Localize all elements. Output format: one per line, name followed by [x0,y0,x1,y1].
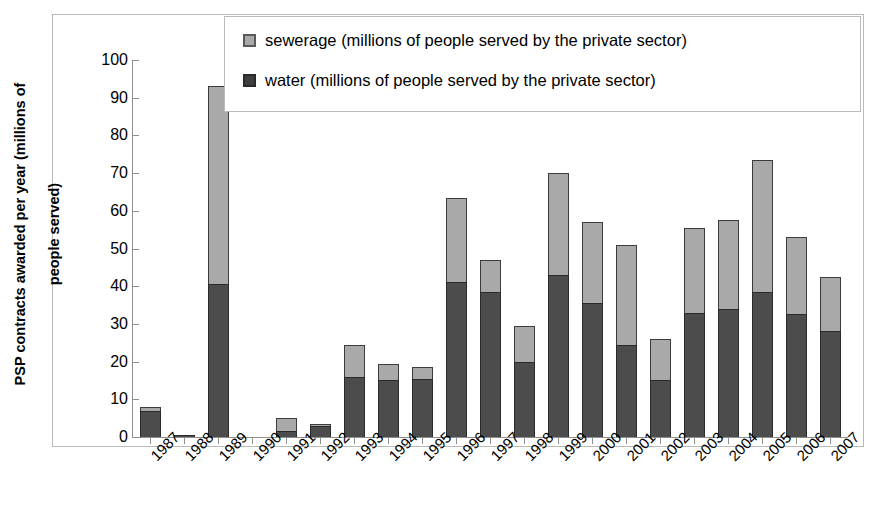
bar-column[interactable] [473,60,507,437]
bar-segment-sewerage[interactable] [718,220,739,309]
stacked-bar[interactable] [718,220,739,437]
bar-column[interactable] [677,60,711,437]
stacked-bar[interactable] [344,345,365,437]
bar-segment-sewerage[interactable] [480,260,501,292]
bar-column[interactable] [337,60,371,437]
x-axis-tick-labels: 1987198819891990199119921993199419951996… [133,444,847,514]
bar-column[interactable] [643,60,677,437]
bar-segment-water[interactable] [718,309,739,437]
bar-column[interactable] [439,60,473,437]
bar-column[interactable] [371,60,405,437]
stacked-bar[interactable] [616,245,637,437]
legend-item-sewerage[interactable]: sewerage (millions of people served by t… [243,31,860,49]
bar-segment-sewerage[interactable] [276,418,297,431]
y-tick-label: 100 [76,52,128,68]
stacked-bar[interactable] [684,228,705,437]
bar-segment-water[interactable] [412,379,433,437]
stacked-bar[interactable] [752,160,773,437]
bar-segment-sewerage[interactable] [446,198,467,283]
x-tick-mark [830,437,831,444]
bar-column[interactable] [235,60,269,437]
bar-segment-sewerage[interactable] [548,173,569,275]
bar-segment-sewerage[interactable] [684,228,705,313]
bar-segment-water[interactable] [786,314,807,437]
bar-segment-sewerage[interactable] [752,160,773,292]
bar-column[interactable] [779,60,813,437]
x-tick-mark [490,437,491,444]
stacked-bar[interactable] [208,86,229,437]
bar-segment-water[interactable] [548,275,569,437]
stacked-bar[interactable] [650,339,671,437]
x-tick-mark [694,437,695,444]
bar-column[interactable] [167,60,201,437]
bar-segment-water[interactable] [140,411,161,437]
bar-segment-sewerage[interactable] [378,364,399,381]
bar-column[interactable] [541,60,575,437]
bar-column[interactable] [813,60,847,437]
x-tick-mark [252,437,253,444]
bar-segment-water[interactable] [344,377,365,437]
bar-segment-water[interactable] [378,380,399,437]
y-tick-label: 40 [76,278,128,294]
x-tick-mark [626,437,627,444]
bar-segment-water[interactable] [208,284,229,437]
y-tick-label: 30 [76,316,128,332]
bar-series-container [133,60,847,437]
bar-segment-sewerage[interactable] [582,222,603,303]
x-tick-mark [524,437,525,444]
bar-column[interactable] [609,60,643,437]
bar-segment-water[interactable] [820,331,841,437]
bar-segment-sewerage[interactable] [208,86,229,284]
x-tick-mark [150,437,151,444]
y-axis-title: PSP contracts awarded per year (millions… [15,19,59,449]
legend-label-water: water (millions of people served by the … [265,71,656,89]
stacked-bar[interactable] [582,222,603,437]
legend-swatch-water-icon [243,74,256,87]
bar-segment-water[interactable] [514,362,535,437]
stacked-bar[interactable] [140,407,161,437]
bar-column[interactable] [575,60,609,437]
bar-column[interactable] [133,60,167,437]
bar-column[interactable] [269,60,303,437]
bar-column[interactable] [711,60,745,437]
bar-segment-water[interactable] [582,303,603,437]
stacked-bar[interactable] [514,326,535,437]
x-tick-mark [422,437,423,444]
bar-segment-water[interactable] [650,380,671,437]
stacked-bar[interactable] [480,260,501,437]
bar-segment-water[interactable] [446,282,467,437]
bar-column[interactable] [507,60,541,437]
bar-segment-sewerage[interactable] [820,277,841,332]
bar-segment-sewerage[interactable] [412,367,433,378]
y-tick-label: 0 [76,429,128,445]
bar-segment-water[interactable] [480,292,501,437]
legend-swatch-sewerage-icon [243,34,256,47]
legend-item-water[interactable]: water (millions of people served by the … [243,71,860,89]
x-tick-mark [796,437,797,444]
y-tick-label: 10 [76,391,128,407]
bar-column[interactable] [405,60,439,437]
bar-column[interactable] [303,60,337,437]
stacked-bar[interactable] [820,277,841,437]
bar-segment-water[interactable] [684,313,705,437]
x-tick-mark [184,437,185,444]
x-tick-mark [320,437,321,444]
bar-segment-sewerage[interactable] [616,245,637,345]
bar-column[interactable] [745,60,779,437]
bar-segment-water[interactable] [752,292,773,437]
bar-segment-sewerage[interactable] [344,345,365,377]
y-axis-tick-labels: 1009080706050403020100 [72,60,128,437]
bar-segment-sewerage[interactable] [514,326,535,362]
stacked-bar[interactable] [548,173,569,437]
chart-legend: sewerage (millions of people served by t… [224,16,861,112]
bar-segment-sewerage[interactable] [786,237,807,314]
stacked-bar[interactable] [786,237,807,437]
x-tick-mark [660,437,661,444]
bar-segment-water[interactable] [616,345,637,437]
y-tick-label: 90 [76,90,128,106]
stacked-bar[interactable] [446,198,467,437]
bar-segment-sewerage[interactable] [650,339,671,380]
stacked-bar[interactable] [412,367,433,437]
stacked-bar[interactable] [378,364,399,438]
bar-column[interactable] [201,60,235,437]
